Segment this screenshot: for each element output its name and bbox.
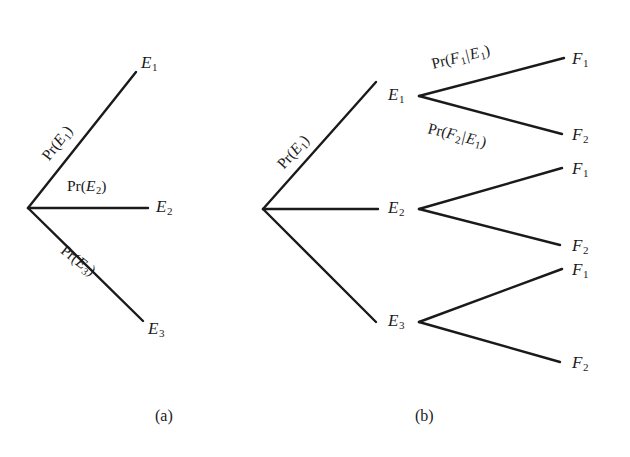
panel-b-node-e1: E1 — [388, 86, 404, 105]
panel-b-node-e3-f2: F2 — [572, 354, 588, 373]
panel-b-node-e3-f1: F1 — [572, 261, 588, 280]
panel-a-node-e2: E2 — [156, 198, 172, 217]
panel-b-node-e1-f2: F2 — [572, 126, 588, 145]
panel-b-caption: (b) — [415, 408, 434, 424]
tree-branch-lines — [0, 0, 630, 457]
panel-b-node-e3: E3 — [388, 312, 404, 331]
panel-a-node-e1: E1 — [141, 54, 157, 73]
panel-b-node-e2-f2: F2 — [572, 237, 588, 256]
panel-b-node-e1-f1: F1 — [572, 50, 588, 69]
panel-b-branch-e3-f1 — [419, 269, 562, 322]
panel-b-branch-e1 — [263, 82, 376, 209]
panel-b-branch-e3 — [263, 209, 376, 322]
panel-b-branch-e2-f1 — [419, 168, 562, 209]
panel-a-caption: (a) — [155, 408, 173, 424]
panel-b-node-e2: E2 — [388, 199, 404, 218]
panel-a-node-e3: E3 — [148, 320, 164, 339]
panel-b-node-e2-f1: F1 — [572, 160, 588, 179]
panel-b-branch-e2-f2 — [419, 209, 560, 245]
probability-tree-figure: Pr(E1)Pr(E2)Pr(E3)E1E2E3(a)Pr(E1)Pr(F1|E… — [0, 0, 630, 457]
panel-a-branch-e2-probability-label: Pr(E2) — [67, 178, 106, 197]
panel-b-branch-e3-f2 — [419, 322, 560, 362]
